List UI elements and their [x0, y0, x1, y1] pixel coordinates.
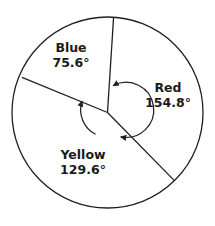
slice-name-red: Red — [133, 80, 203, 95]
radius-blue-yellow — [22, 77, 108, 112]
pie-chart-drawing — [0, 0, 215, 226]
pie-chart-figure: Blue 75.6° Red 154.8° Yellow 129.6° — [0, 0, 215, 226]
slice-label-blue: Blue 75.6° — [33, 40, 109, 70]
slice-label-red: Red 154.8° — [133, 80, 203, 110]
slice-angle-red: 154.8° — [133, 95, 203, 110]
slice-angle-blue: 75.6° — [33, 55, 109, 70]
slice-angle-yellow: 129.6° — [42, 162, 124, 177]
slice-name-yellow: Yellow — [42, 147, 124, 162]
slice-name-blue: Blue — [33, 40, 109, 55]
slice-label-yellow: Yellow 129.6° — [42, 147, 124, 177]
